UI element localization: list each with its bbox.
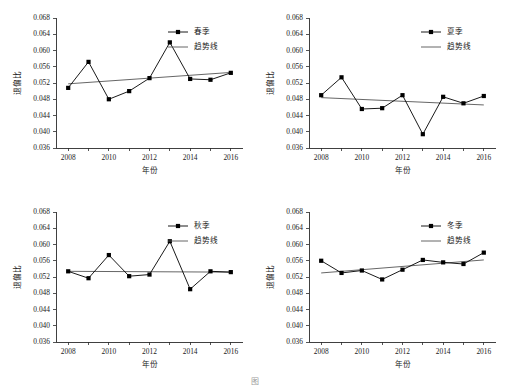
data-point-marker <box>208 78 212 82</box>
data-point-marker <box>86 276 90 280</box>
data-point-marker <box>339 271 343 275</box>
legend-label-season: 夏季 <box>447 26 463 36</box>
data-point-marker <box>147 76 151 80</box>
y-tick-label: 0.036 <box>286 337 303 346</box>
data-point-marker <box>380 106 384 110</box>
data-point-marker <box>339 75 343 79</box>
legend-label-trend: 趋势线 <box>447 235 471 245</box>
y-axis-title: 退偏比 <box>12 265 22 289</box>
y-tick-label: 0.040 <box>286 321 303 330</box>
data-series-line <box>68 42 231 99</box>
y-tick-label: 0.056 <box>33 256 50 265</box>
x-tick-label: 2008 <box>314 347 329 356</box>
x-tick-label: 2012 <box>395 153 410 162</box>
data-point-marker <box>229 71 233 75</box>
y-tick-label: 0.052 <box>286 272 303 281</box>
legend-label-season: 冬季 <box>447 220 463 230</box>
y-axis-title: 退偏比 <box>265 265 275 289</box>
y-tick-label: 0.052 <box>33 272 50 281</box>
data-point-marker <box>319 259 323 263</box>
data-point-marker <box>127 89 131 93</box>
data-point-marker <box>66 86 70 90</box>
chart-panel-spring: 0.0360.0400.0440.0480.0520.0560.0600.064… <box>0 2 254 198</box>
y-tick-label: 0.068 <box>33 207 50 216</box>
y-axis-title: 退偏比 <box>12 71 22 95</box>
x-axis-title: 年份 <box>395 359 411 369</box>
data-point-marker <box>208 269 212 273</box>
data-point-marker <box>229 270 233 274</box>
figure-caption: 图 <box>0 372 509 392</box>
y-tick-label: 0.060 <box>286 46 303 55</box>
chart-panel-summer: 0.0360.0400.0440.0480.0520.0560.0600.064… <box>253 2 507 198</box>
data-point-marker <box>400 268 404 272</box>
legend-series-marker <box>429 224 433 228</box>
y-axis-title: 退偏比 <box>265 71 275 95</box>
y-tick-label: 0.044 <box>33 111 50 120</box>
y-tick-label: 0.056 <box>286 256 303 265</box>
y-tick-label: 0.044 <box>286 305 303 314</box>
chart-svg: 0.0360.0400.0440.0480.0520.0560.0600.064… <box>253 196 507 392</box>
y-tick-label: 0.044 <box>286 111 303 120</box>
x-axis-title: 年份 <box>142 359 158 369</box>
x-tick-label: 2014 <box>436 153 451 162</box>
data-point-marker <box>482 251 486 255</box>
y-tick-label: 0.048 <box>286 94 303 103</box>
y-tick-label: 0.060 <box>33 240 50 249</box>
axis-frame <box>309 212 496 342</box>
data-point-marker <box>86 60 90 64</box>
x-tick-label: 2010 <box>354 153 369 162</box>
legend-label-trend: 趋势线 <box>194 41 218 51</box>
legend-label-trend: 趋势线 <box>194 235 218 245</box>
data-point-marker <box>461 101 465 105</box>
data-point-marker <box>441 260 445 264</box>
y-tick-label: 0.064 <box>286 223 303 232</box>
data-series-line <box>68 241 231 289</box>
y-tick-label: 0.068 <box>286 207 303 216</box>
data-point-marker <box>421 132 425 136</box>
legend-series-marker <box>429 30 433 34</box>
x-tick-label: 2012 <box>142 153 157 162</box>
x-tick-label: 2012 <box>395 347 410 356</box>
data-point-marker <box>188 77 192 81</box>
trend-line <box>68 271 231 272</box>
x-tick-label: 2016 <box>223 153 238 162</box>
x-axis-title: 年份 <box>142 165 158 175</box>
data-point-marker <box>107 253 111 257</box>
x-tick-label: 2008 <box>61 153 76 162</box>
y-tick-label: 0.040 <box>33 321 50 330</box>
trend-line <box>321 98 484 105</box>
data-point-marker <box>319 93 323 97</box>
data-point-marker <box>168 40 172 44</box>
data-point-marker <box>461 262 465 266</box>
y-tick-label: 0.048 <box>33 288 50 297</box>
x-tick-label: 2016 <box>476 153 491 162</box>
panel-grid: 0.0360.0400.0440.0480.0520.0560.0600.064… <box>0 0 509 370</box>
y-tick-label: 0.048 <box>286 288 303 297</box>
chart-svg: 0.0360.0400.0440.0480.0520.0560.0600.064… <box>253 2 507 198</box>
y-tick-label: 0.056 <box>33 62 50 71</box>
x-tick-label: 2016 <box>476 347 491 356</box>
x-tick-label: 2016 <box>223 347 238 356</box>
data-point-marker <box>66 269 70 273</box>
data-series-line <box>321 77 484 134</box>
y-tick-label: 0.064 <box>33 223 50 232</box>
x-tick-label: 2010 <box>101 153 116 162</box>
axis-frame <box>309 18 496 148</box>
data-point-marker <box>441 95 445 99</box>
y-tick-label: 0.068 <box>33 13 50 22</box>
figure-seasonal-depolarization-ratio: 0.0360.0400.0440.0480.0520.0560.0600.064… <box>0 0 509 392</box>
y-tick-label: 0.040 <box>33 127 50 136</box>
x-tick-label: 2008 <box>61 347 76 356</box>
legend-label-trend: 趋势线 <box>447 41 471 51</box>
data-point-marker <box>127 274 131 278</box>
x-tick-label: 2010 <box>354 347 369 356</box>
chart-svg: 0.0360.0400.0440.0480.0520.0560.0600.064… <box>0 196 254 392</box>
data-point-marker <box>482 94 486 98</box>
x-axis-title: 年份 <box>395 165 411 175</box>
y-tick-label: 0.036 <box>33 143 50 152</box>
data-point-marker <box>188 287 192 291</box>
y-tick-label: 0.040 <box>286 127 303 136</box>
chart-panel-winter: 0.0360.0400.0440.0480.0520.0560.0600.064… <box>253 196 507 392</box>
y-tick-label: 0.060 <box>33 46 50 55</box>
data-point-marker <box>400 93 404 97</box>
